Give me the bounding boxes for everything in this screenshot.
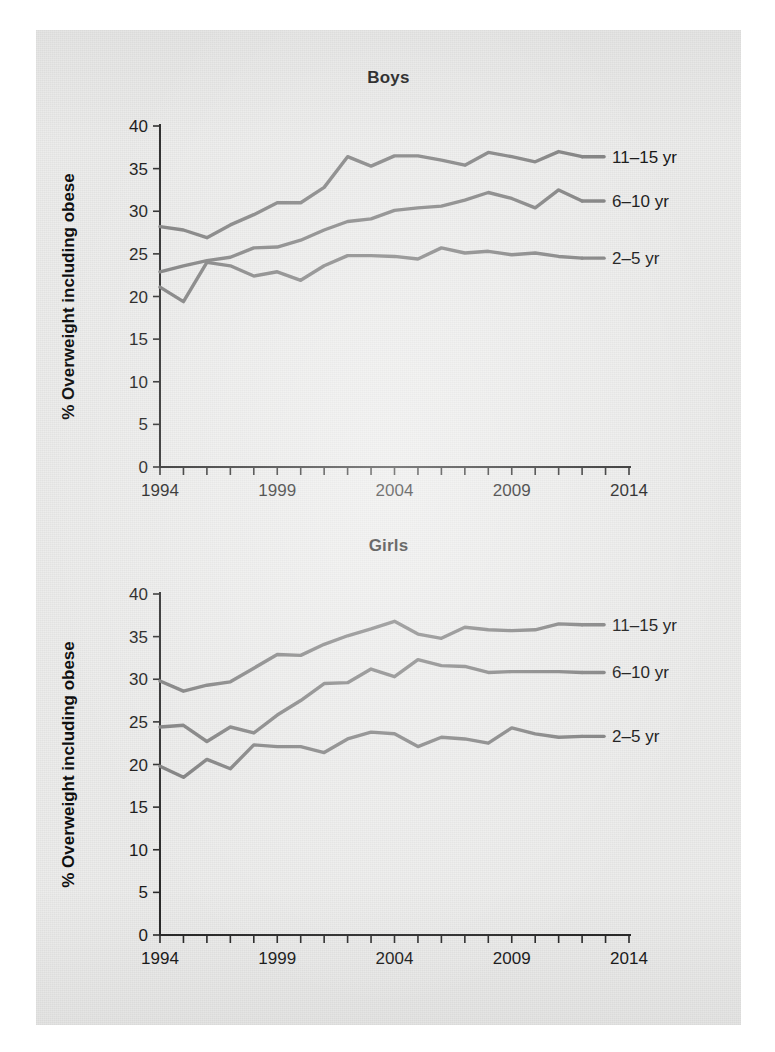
y-tick-label: 30: [129, 202, 148, 221]
y-tick-label: 10: [129, 373, 148, 392]
label-group-girls: 11–15 yr6–10 yr2–5 yr: [612, 616, 677, 747]
data-line-2: [160, 728, 582, 777]
y-tick-label: 5: [139, 883, 148, 902]
chart-girls: Girls 0510152025303540199419992004200920…: [36, 508, 741, 978]
chart-boys: Boys 05101520253035401994199920042009201…: [36, 40, 741, 510]
series-label-0: 11–15 yr: [612, 616, 677, 635]
x-tick-label: 2009: [493, 949, 531, 968]
series-label-2: 2–5 yr: [612, 727, 660, 746]
x-tick-label: 2004: [376, 949, 414, 968]
series-group-girls: [160, 621, 604, 777]
plot-svg-boys: 051015202530354019941999200420092014% Ov…: [36, 40, 741, 510]
plot-svg-girls: 051015202530354019941999200420092014% Ov…: [36, 508, 741, 978]
y-tick-label: 30: [129, 670, 148, 689]
series-label-2: 2–5 yr: [612, 249, 660, 268]
x-tick-label: 1999: [258, 481, 296, 500]
data-line-2: [160, 248, 582, 302]
axis-group-girls: 051015202530354019941999200420092014% Ov…: [59, 585, 648, 968]
y-tick-label: 0: [139, 926, 148, 945]
x-tick-label: 2014: [610, 949, 648, 968]
data-line-0: [160, 152, 582, 238]
y-tick-label: 40: [129, 117, 148, 136]
series-group-boys: [160, 152, 604, 302]
x-tick-label: 1994: [141, 949, 179, 968]
data-line-0: [160, 621, 582, 691]
y-tick-label: 0: [139, 458, 148, 477]
y-tick-label: 15: [129, 330, 148, 349]
y-tick-label: 15: [129, 798, 148, 817]
y-tick-label: 35: [129, 628, 148, 647]
series-label-1: 6–10 yr: [612, 192, 669, 211]
series-label-0: 11–15 yr: [612, 148, 677, 167]
x-tick-label: 1994: [141, 481, 179, 500]
y-tick-label: 20: [129, 288, 148, 307]
y-tick-label: 5: [139, 415, 148, 434]
y-tick-label: 25: [129, 713, 148, 732]
x-tick-label: 2004: [376, 481, 414, 500]
scanned-page: Boys 05101520253035401994199920042009201…: [36, 30, 741, 1025]
y-tick-label: 10: [129, 841, 148, 860]
y-axis-title: % Overweight including obese: [59, 641, 78, 888]
y-axis-title: % Overweight including obese: [59, 173, 78, 420]
series-label-1: 6–10 yr: [612, 663, 669, 682]
x-tick-label: 1999: [258, 949, 296, 968]
axis-group-boys: 051015202530354019941999200420092014% Ov…: [59, 117, 648, 500]
x-tick-label: 2009: [493, 481, 531, 500]
label-group-boys: 11–15 yr6–10 yr2–5 yr: [612, 148, 677, 268]
y-tick-label: 25: [129, 245, 148, 264]
data-line-1: [160, 190, 582, 272]
y-tick-label: 40: [129, 585, 148, 604]
y-tick-label: 20: [129, 756, 148, 775]
y-tick-label: 35: [129, 160, 148, 179]
x-tick-label: 2014: [610, 481, 648, 500]
